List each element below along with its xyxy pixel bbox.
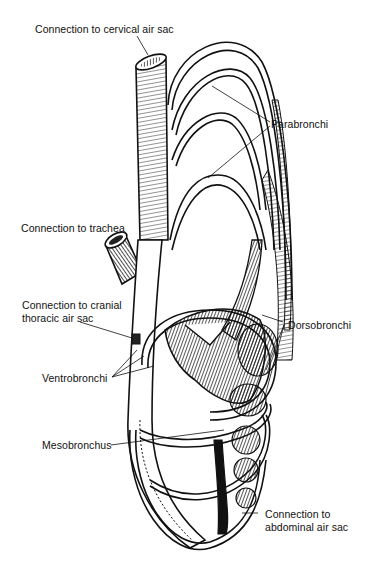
mesobronchus-trunk bbox=[128, 240, 205, 548]
label-abdominal-air-sac-line2: abdominal air sac bbox=[265, 521, 348, 534]
label-abdominal-air-sac-line1: Connection to bbox=[265, 508, 330, 521]
label-cranial-thoracic-air-sac-line1: Connection to cranial bbox=[22, 299, 122, 312]
label-trachea: Connection to trachea bbox=[21, 222, 125, 235]
cervical-air-sac-tube bbox=[134, 51, 168, 240]
label-cervical-air-sac: Connection to cervical air sac bbox=[35, 23, 174, 36]
parabronchi-arches bbox=[168, 42, 292, 300]
label-ventrobronchi: Ventrobronchi bbox=[42, 372, 107, 385]
lung-illustration bbox=[0, 0, 368, 574]
label-dorsobronchi: Dorsobronchi bbox=[288, 319, 351, 332]
ventrobronchi-hub bbox=[165, 240, 265, 403]
cranial-thoracic-knob bbox=[132, 334, 140, 344]
label-cranial-thoracic-air-sac-line2: thoracic air sac bbox=[22, 312, 93, 325]
avian-lung-diagram: Connection to cervical air sac Parabronc… bbox=[0, 0, 368, 574]
label-parabronchi: Parabronchi bbox=[271, 118, 328, 131]
label-mesobronchus: Mesobronchus bbox=[42, 439, 111, 452]
